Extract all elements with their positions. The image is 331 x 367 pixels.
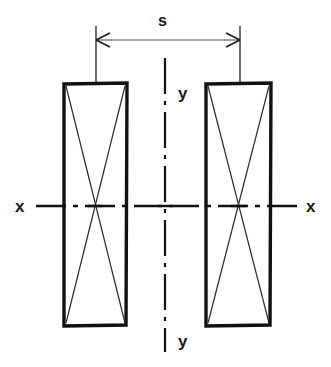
- x-axis-label-left: x: [15, 198, 24, 215]
- y-axis-label-bottom: y: [178, 333, 187, 350]
- dimension-extension-lines: [96, 26, 240, 84]
- x-axis-label-right: x: [306, 198, 315, 215]
- dimension-label-s: s: [158, 13, 167, 29]
- right-rectangle-shape: [206, 83, 271, 326]
- dimension-line-s: [96, 33, 240, 47]
- y-axis-label-top: y: [178, 85, 187, 102]
- technical-drawing-figure: s x x y y: [0, 0, 331, 367]
- left-rectangle-shape: [64, 83, 127, 326]
- figure-canvas: [0, 0, 331, 367]
